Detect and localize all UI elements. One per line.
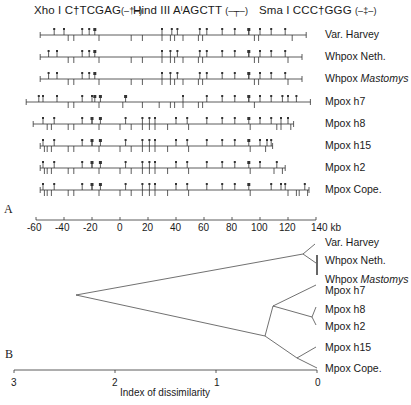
xhoi-head (175, 183, 177, 185)
kb-tick-label: -20 (83, 222, 97, 233)
map-label-mpox-cope: Mpox Cope. (325, 183, 382, 195)
xhoi-head (186, 161, 188, 163)
xhoi-head (259, 117, 261, 119)
xhoi-head (161, 28, 163, 30)
xhoi-head (176, 28, 178, 30)
smai-head (247, 183, 250, 186)
xhoi-head (234, 117, 236, 119)
xhoi-head (175, 139, 177, 141)
panel-a-label: A (4, 202, 13, 217)
xhoi-head (53, 161, 55, 163)
xhoi-head (148, 117, 150, 119)
smai-head (99, 95, 102, 98)
xhoi-head (221, 183, 223, 185)
xhoi-head (53, 117, 55, 119)
xhoi-head (259, 28, 261, 30)
tree-leaf-mpox-h8: Mpox h8 (325, 303, 365, 315)
xhoi-head (42, 95, 44, 97)
branch-h15-cope (265, 336, 297, 358)
xhoi-head (221, 28, 223, 30)
xhoi-head (81, 95, 83, 97)
xhoi-head (259, 50, 261, 52)
xhoi-head (199, 28, 201, 30)
branch-mpox-cope (297, 358, 317, 368)
xhoi-head (206, 117, 208, 119)
xhoi-head (276, 161, 278, 163)
xhoi-head (287, 117, 289, 119)
xhoi-head (270, 72, 272, 74)
xhoi-head (270, 117, 272, 119)
xhoi-head (125, 183, 127, 185)
kb-tick-label: 120 (279, 222, 296, 233)
xhoi-head (88, 28, 90, 30)
xhoi-head (56, 72, 58, 74)
xhoi-head (284, 50, 286, 52)
xhoi-head (281, 95, 283, 97)
xhoi-head (169, 72, 171, 74)
xhoi-head (169, 50, 171, 52)
smai-head (91, 139, 94, 142)
xhoi-head (42, 161, 44, 163)
xhoi-head (91, 95, 93, 97)
xhoi-head (234, 183, 236, 185)
smai-head (247, 28, 250, 31)
map-label-mpox-h7: Mpox h7 (325, 95, 365, 107)
smai-head (99, 139, 102, 142)
dissimilarity-axis-title: Index of dissimilarity (120, 387, 210, 398)
xhoi-head (88, 50, 90, 52)
xhoi-head (221, 95, 223, 97)
xhoi-head (171, 28, 173, 30)
kb-tick-label: 80 (226, 222, 237, 233)
xhoi-head (206, 95, 208, 97)
tree-leaf-mpox-h7: Mpox h7 (325, 284, 365, 296)
xhoi-head (176, 72, 178, 74)
smai-head (99, 117, 102, 120)
kb-tick-label: 140 kb (311, 222, 341, 233)
dissimilarity-tick-3: 3 (11, 377, 17, 388)
xhoi-head (42, 139, 44, 141)
map-label-whpox-neth: Whpox Neth. (325, 50, 386, 62)
xhoi-head (42, 117, 44, 119)
xhoi-head (206, 161, 208, 163)
xhoi-head (206, 72, 208, 74)
xhoi-head (48, 50, 50, 52)
xhoi-head (234, 139, 236, 141)
smai-head (247, 139, 250, 142)
xhoi-head (53, 28, 55, 30)
xhoi-head (81, 72, 83, 74)
xhoi-head (270, 28, 272, 30)
smai-head (93, 50, 96, 53)
tree-leaf-mpox-cope: Mpox Cope. (325, 362, 382, 374)
xhoi-head (154, 117, 156, 119)
xhoi-head (284, 28, 286, 30)
xhoi-head (38, 95, 40, 97)
smai-head (247, 72, 250, 75)
xhoi-head (270, 139, 272, 141)
tree-leaf-mpox-h2: Mpox h2 (325, 320, 365, 332)
xhoi-head (154, 139, 156, 141)
map-label-var-harvey: Var. Harvey (325, 28, 379, 40)
map-label-mpox-h15: Mpox h15 (325, 139, 371, 151)
xhoi-head (270, 183, 272, 185)
map-label-mpox-h2: Mpox h2 (325, 161, 365, 173)
xhoi-head (148, 161, 150, 163)
xhoi-head (284, 72, 286, 74)
xhoi-head (234, 50, 236, 52)
xhoi-head (53, 183, 55, 185)
xhoi-head (81, 28, 83, 30)
panel-b-label: B (5, 347, 13, 362)
xhoi-head (81, 117, 83, 119)
xhoi-head (304, 183, 306, 185)
kb-tick-label: 60 (198, 222, 209, 233)
xhoi-head (234, 161, 236, 163)
xhoi-head (280, 183, 282, 185)
xhoi-head (88, 72, 90, 74)
xhoi-head (148, 139, 150, 141)
branch-whpox (303, 254, 316, 263)
xhoi-head (270, 95, 272, 97)
smai-head (93, 95, 96, 98)
branch-mpox-h7 (273, 285, 316, 306)
xhoi-head (259, 72, 261, 74)
xhoi-head (206, 183, 208, 185)
xhoi-head (234, 72, 236, 74)
